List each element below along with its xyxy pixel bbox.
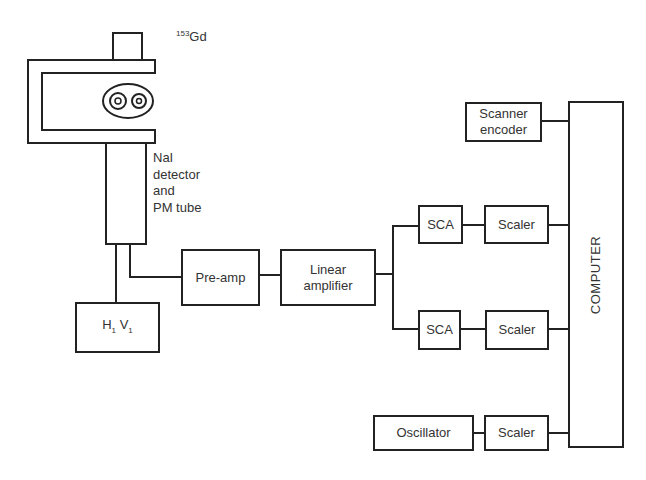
- wire-branch-vertical: [392, 225, 394, 330]
- computer-label: COMPUTER: [588, 235, 604, 313]
- wire-preamp-linear: [259, 274, 281, 276]
- isotope-element: Gd: [189, 29, 206, 44]
- source-label: 153Gd: [176, 26, 207, 45]
- scaler-osc-box: Scaler: [484, 415, 549, 451]
- hv-supply-box: H1 V1: [75, 302, 160, 353]
- sca-top-box: SCA: [418, 205, 463, 244]
- wire-sca-scaler-top: [462, 224, 485, 226]
- nai-detector-tube: [106, 143, 146, 244]
- scaler-top-label: Scaler: [498, 217, 535, 233]
- computer-box: COMPUTER: [568, 101, 624, 448]
- detector-label-line: detector: [153, 167, 201, 184]
- scaler-top-box: Scaler: [484, 205, 549, 244]
- hv-supply-label: H1 V1: [102, 317, 133, 339]
- oscillator-label: Oscillator: [396, 425, 450, 441]
- oscillator-box: Oscillator: [373, 415, 474, 451]
- wire-scaler-osc-computer: [548, 432, 569, 434]
- preamp-box: Pre-amp: [181, 249, 260, 306]
- scaler-osc-label: Scaler: [498, 425, 535, 441]
- wire-detector-preamp-v: [129, 244, 131, 278]
- wire-sca-scaler-bottom: [460, 328, 486, 330]
- sca-top-label: SCA: [427, 217, 454, 233]
- wire-scaler-top-computer: [548, 224, 569, 226]
- source-holder-icon: [113, 33, 142, 60]
- isotope-mass-number: 153: [176, 29, 189, 38]
- wire-detector-hv: [115, 244, 117, 303]
- wire-detector-preamp-h: [129, 276, 182, 278]
- scaler-bottom-box: Scaler: [485, 310, 549, 350]
- preamp-label: Pre-amp: [196, 270, 246, 286]
- linear-amplifier-label-line2: amplifier: [303, 278, 352, 294]
- sca-bottom-label: SCA: [426, 322, 453, 338]
- wire-branch-sca-bottom: [392, 328, 419, 330]
- detector-label-line: and: [153, 183, 201, 200]
- scanner-encoder-box: Scanner encoder: [465, 102, 542, 142]
- wire-scaler-bottom-computer: [548, 328, 569, 330]
- scanner-encoder-label-line2: encoder: [480, 122, 527, 138]
- linear-amplifier-box: Linear amplifier: [280, 249, 376, 306]
- detector-head-drawing: [0, 0, 646, 480]
- linear-amplifier-label-line1: Linear: [310, 262, 346, 278]
- detector-label-line: NaI: [153, 150, 201, 167]
- scaler-bottom-label: Scaler: [499, 322, 536, 338]
- scanner-encoder-label-line1: Scanner: [479, 106, 527, 122]
- wire-scanner-computer: [541, 120, 569, 122]
- detector-label: NaI detector and PM tube: [153, 150, 201, 216]
- sca-bottom-box: SCA: [418, 310, 461, 350]
- detector-label-line: PM tube: [153, 200, 201, 217]
- wire-branch-sca-top: [392, 225, 419, 227]
